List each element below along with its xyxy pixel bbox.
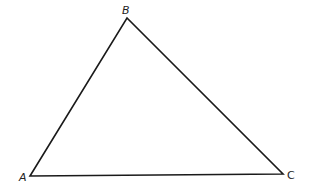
triangle-diagram: A B C	[0, 0, 313, 193]
vertex-label-c: C	[287, 169, 295, 182]
vertex-label-b: B	[122, 4, 130, 17]
vertex-label-a: A	[18, 171, 27, 184]
triangle-abc	[30, 18, 283, 176]
